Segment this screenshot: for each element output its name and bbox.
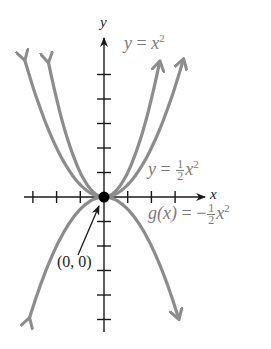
- vertex-point: [99, 192, 110, 203]
- label-y-equals-half-x-squared: y = 12x2: [148, 159, 199, 182]
- y-axis: [97, 38, 111, 332]
- label-y-equals-x-squared: y = x2: [124, 33, 165, 54]
- label-g-equals-neg-half-x-squared: g(x) = −12x2: [148, 203, 230, 226]
- origin-label: (0, 0): [57, 253, 92, 271]
- origin-pointer-arrow: [78, 206, 99, 255]
- y-axis-label: y: [100, 14, 107, 31]
